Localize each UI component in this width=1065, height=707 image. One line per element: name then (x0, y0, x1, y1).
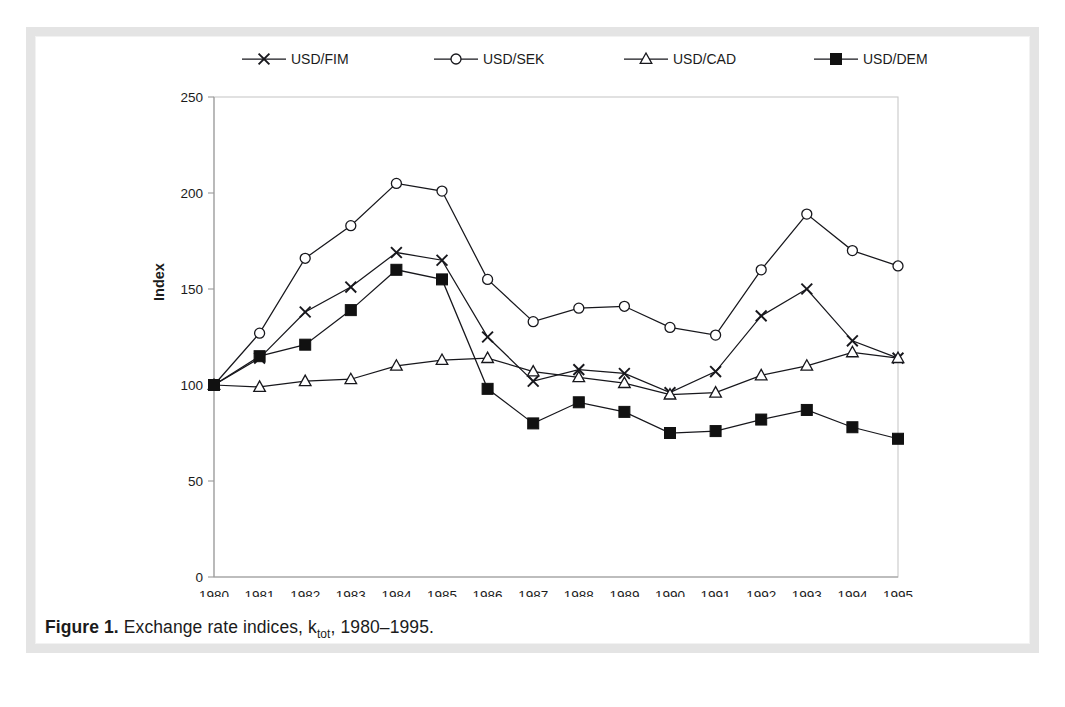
data-point (619, 301, 629, 311)
legend-item-usd-fim[interactable]: USD/FIM (242, 51, 349, 67)
data-point (801, 284, 812, 295)
marker-triangle (436, 354, 448, 364)
marker-triangle (640, 53, 652, 63)
marker-circle (483, 274, 493, 284)
marker-circle (893, 261, 903, 271)
marker-circle (574, 303, 584, 313)
x-tick-label: 1990 (655, 588, 685, 597)
marker-square (710, 426, 721, 437)
legend-item-usd-sek[interactable]: USD/SEK (434, 51, 545, 67)
x-tick-label: 1983 (336, 588, 366, 597)
marker-circle (619, 301, 629, 311)
x-tick-label: 1995 (883, 588, 913, 597)
series-line-path (214, 352, 898, 394)
data-point (710, 387, 722, 397)
data-point (299, 375, 311, 385)
figure-caption-label: Figure 1. (45, 617, 119, 637)
y-tick-label: 0 (195, 570, 203, 585)
x-tick-label: 1986 (473, 588, 503, 597)
figure-caption: Figure 1. Exchange rate indices, ktot, 1… (45, 617, 434, 641)
x-tick-label: 1994 (837, 588, 868, 597)
marker-circle (756, 265, 766, 275)
plot-area-border (214, 97, 898, 577)
data-point (528, 376, 539, 387)
chart-canvas: 0501001502002501980198119821983198419851… (36, 37, 1029, 597)
series-usd-cad (208, 346, 904, 399)
data-point (483, 274, 493, 284)
data-point (346, 221, 356, 231)
y-tick-label: 100 (180, 378, 203, 393)
figure-caption-text: Exchange rate indices, k (124, 617, 317, 637)
data-point (756, 414, 767, 425)
marker-circle (451, 54, 461, 64)
marker-square (665, 428, 676, 439)
data-point (710, 426, 721, 437)
x-tick-label: 1988 (564, 588, 594, 597)
legend-marker (451, 54, 461, 64)
marker-square (573, 397, 584, 408)
data-point (756, 265, 766, 275)
marker-square (847, 422, 858, 433)
data-point (436, 354, 448, 364)
x-tick-label: 1991 (701, 588, 731, 597)
x-tick-label: 1984 (381, 588, 412, 597)
legend-item-usd-cad[interactable]: USD/CAD (624, 51, 736, 67)
legend-marker (831, 54, 842, 65)
data-point (255, 328, 265, 338)
marker-square (756, 414, 767, 425)
data-point (847, 246, 857, 256)
data-point (619, 406, 630, 417)
legend-item-usd-dem[interactable]: USD/DEM (814, 51, 928, 67)
legend-label: USD/CAD (673, 51, 736, 67)
marker-triangle (482, 352, 494, 362)
marker-circle (300, 253, 310, 263)
x-tick-label: 1980 (199, 588, 229, 597)
marker-circle (391, 178, 401, 188)
series-usd-dem (209, 264, 904, 444)
data-point (665, 428, 676, 439)
data-point (847, 335, 858, 346)
series-usd-sek (209, 178, 903, 390)
legend-label: USD/FIM (291, 51, 349, 67)
marker-square (482, 383, 493, 394)
data-point (254, 351, 265, 362)
legend-marker (640, 53, 652, 63)
legend-label: USD/DEM (863, 51, 928, 67)
x-tick-label: 1989 (609, 588, 639, 597)
y-tick-label: 200 (180, 186, 203, 201)
data-point (300, 339, 311, 350)
x-tick-label: 1992 (746, 588, 776, 597)
data-point (391, 247, 402, 258)
figure-caption-row: Figure 1. Exchange rate indices, ktot, 1… (45, 612, 1005, 646)
data-point (711, 330, 721, 340)
marker-circle (711, 330, 721, 340)
series-line-path (214, 183, 898, 385)
data-point (391, 178, 401, 188)
data-point (300, 307, 311, 318)
marker-triangle (710, 387, 722, 397)
y-tick-label: 250 (180, 90, 203, 105)
x-tick-label: 1981 (245, 588, 275, 597)
marker-circle (665, 322, 675, 332)
marker-square (300, 339, 311, 350)
data-point (665, 322, 675, 332)
data-point (756, 310, 767, 321)
data-point (802, 209, 812, 219)
legend-label: USD/SEK (483, 51, 545, 67)
data-point (574, 303, 584, 313)
data-point (528, 418, 539, 429)
marker-circle (255, 328, 265, 338)
marker-square (391, 264, 402, 275)
marker-square (209, 380, 220, 391)
series-usd-fim (209, 247, 904, 398)
marker-square (831, 54, 842, 65)
data-point (437, 255, 448, 266)
data-point (893, 433, 904, 444)
data-point (482, 383, 493, 394)
marker-circle (437, 186, 447, 196)
data-point (482, 332, 493, 343)
marker-square (254, 351, 265, 362)
data-point (847, 422, 858, 433)
data-point (345, 282, 356, 293)
x-tick-label: 1993 (792, 588, 822, 597)
